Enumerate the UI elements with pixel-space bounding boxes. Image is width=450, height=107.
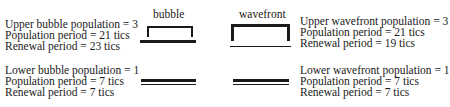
wavefront-label: wavefront bbox=[239, 8, 286, 20]
upper-wavefront-renewal-period: Renewal period = 19 tics bbox=[300, 38, 448, 49]
lower-wavefront-renewal-period: Renewal period = 7 tics bbox=[300, 87, 450, 98]
lower-bubble-text: Lower bubble population = 1 Population p… bbox=[5, 65, 139, 98]
bubble-label: bubble bbox=[153, 8, 184, 20]
lower-wavefront-text: Lower wavefront population = 1 Populatio… bbox=[300, 65, 450, 98]
upper-wavefront-text: Upper wavefront population = 3 Populatio… bbox=[300, 16, 448, 49]
upper-bubble-renewal-period: Renewal period = 23 tics bbox=[5, 41, 138, 52]
upper-bubble-text: Upper bubble population = 3 Population p… bbox=[5, 19, 138, 52]
lower-bubble-renewal-period: Renewal period = 7 tics bbox=[5, 87, 139, 98]
